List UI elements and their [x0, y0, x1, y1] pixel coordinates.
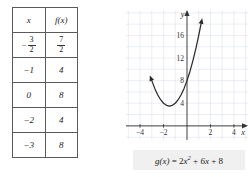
plus-sign-2: + [211, 156, 216, 166]
x-tick-label: −4 [136, 128, 144, 137]
column-header-fx: f(x) [45, 8, 78, 33]
term-quadratic-exponent: 2 [188, 154, 191, 161]
parabola-plot: −4−224481216 x y [126, 10, 248, 140]
y-tick-label: 4 [180, 99, 184, 108]
fraction-negative-three-halves: − 3 2 [22, 36, 36, 54]
table-row: 0 8 [13, 83, 78, 108]
table-row: −1 4 [13, 58, 78, 83]
table-body: − 3 2 7 2 [13, 33, 78, 158]
fraction-denominator: 2 [28, 46, 36, 55]
x-tick-label: −2 [160, 128, 168, 137]
table-head: x f(x) [13, 8, 78, 33]
x-tick-label: 2 [209, 128, 213, 137]
equation-caption: g(x) = 2x2 + 6x + 8 [155, 154, 223, 166]
equals-sign: = [172, 156, 177, 166]
equation-caption-band: g(x) = 2x2 + 6x + 8 [133, 150, 245, 170]
column-header-x: x [13, 8, 46, 33]
fraction-denominator: 2 [57, 46, 65, 55]
table-header-row: x f(x) [13, 8, 78, 33]
cell-fx-3: 4 [45, 108, 78, 133]
graph-panel: −4−224481216 x y [126, 10, 248, 140]
minus-sign: − [22, 41, 27, 50]
table-row: − 3 2 7 2 [13, 33, 78, 58]
value-table-panel: x f(x) − 3 2 [12, 7, 78, 158]
term-constant: 8 [218, 156, 223, 166]
y-tick-label: 8 [180, 76, 184, 85]
table-row: −3 8 [13, 133, 78, 158]
curve-arrow-right-icon [199, 18, 204, 24]
cell-x-0: − 3 2 [13, 33, 46, 58]
value-table: x f(x) − 3 2 [12, 7, 78, 158]
y-tick-label: 12 [177, 54, 185, 63]
term-linear: 6x [200, 156, 209, 166]
cell-x-2: 0 [13, 83, 46, 108]
cell-fx-4: 8 [45, 133, 78, 158]
x-axis-label: x [240, 128, 245, 137]
cell-x-1: −1 [13, 58, 46, 83]
y-tick-label: 16 [177, 31, 185, 40]
function-name: g(x) [155, 156, 170, 166]
cell-fx-0: 7 2 [45, 33, 78, 58]
plus-sign-1: + [193, 156, 198, 166]
fraction: 3 2 [28, 36, 36, 54]
cell-x-4: −3 [13, 133, 46, 158]
x-tick-label: 4 [232, 128, 236, 137]
table-row: −2 4 [13, 108, 78, 133]
fraction-seven-halves: 7 2 [57, 36, 65, 54]
cell-fx-1: 4 [45, 58, 78, 83]
cell-fx-2: 8 [45, 83, 78, 108]
y-axis-label: y [180, 10, 185, 19]
cell-x-3: −2 [13, 108, 46, 133]
axes [126, 10, 248, 140]
math-figure: x f(x) − 3 2 [0, 0, 248, 177]
